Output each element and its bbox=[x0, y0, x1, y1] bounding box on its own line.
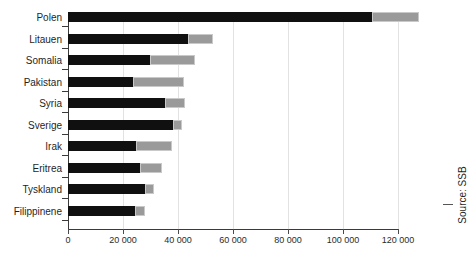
category-tick bbox=[62, 155, 68, 156]
chart-row: Polen bbox=[0, 12, 471, 33]
bar-segment-series-2-light bbox=[136, 141, 172, 151]
bar-segment-series-1-dark bbox=[68, 12, 372, 22]
category-label-irak: Irak bbox=[0, 141, 62, 153]
chart-row: Pakistan bbox=[0, 77, 471, 98]
bar-segment-series-2-light bbox=[372, 12, 419, 22]
category-tick bbox=[62, 91, 68, 92]
bar-sverige bbox=[68, 120, 182, 130]
bar-segment-series-2-light bbox=[188, 34, 213, 44]
category-tick bbox=[62, 177, 68, 178]
bar-segment-series-1-dark bbox=[68, 55, 150, 65]
chart-row: Somalia bbox=[0, 55, 471, 76]
bar-segment-series-1-dark bbox=[68, 141, 136, 151]
category-tick bbox=[62, 220, 68, 221]
chart-row: Eritrea bbox=[0, 163, 471, 184]
x-tick bbox=[343, 229, 344, 234]
bar-segment-series-1-dark bbox=[68, 184, 145, 194]
category-tick bbox=[62, 198, 68, 199]
category-label-filippinene: Filippinene bbox=[0, 206, 62, 218]
bar-segment-series-2-light bbox=[165, 98, 185, 108]
x-tick-label: 20 000 bbox=[109, 235, 137, 245]
bar-pakistan bbox=[68, 77, 184, 87]
category-tick bbox=[62, 112, 68, 113]
bar-segment-series-2-light bbox=[150, 55, 195, 65]
x-tick-label: 100 000 bbox=[327, 235, 360, 245]
x-tick bbox=[398, 229, 399, 234]
x-tick bbox=[68, 229, 69, 234]
bar-segment-series-2-light bbox=[140, 163, 162, 173]
chart-row: Irak bbox=[0, 141, 471, 162]
bar-segment-series-1-dark bbox=[68, 77, 133, 87]
bar-filippinene bbox=[68, 206, 145, 216]
bar-segment-series-2-light bbox=[133, 77, 184, 87]
x-tick bbox=[123, 229, 124, 234]
category-label-litauen: Litauen bbox=[0, 34, 62, 46]
bar-polen bbox=[68, 12, 419, 22]
bar-tyskland bbox=[68, 184, 154, 194]
category-tick bbox=[62, 26, 68, 27]
chart-row: Sverige bbox=[0, 120, 471, 141]
bar-segment-series-1-dark bbox=[68, 98, 165, 108]
x-tick-label: 120 000 bbox=[382, 235, 415, 245]
source-note: Source: SSB bbox=[455, 140, 469, 250]
x-tick-label: 40 000 bbox=[164, 235, 192, 245]
category-label-pakistan: Pakistan bbox=[0, 77, 62, 89]
category-tick bbox=[62, 69, 68, 70]
x-tick bbox=[288, 229, 289, 234]
chart-row: Tyskland bbox=[0, 184, 471, 205]
bar-somalia bbox=[68, 55, 195, 65]
x-tick-label: 60 000 bbox=[219, 235, 247, 245]
bar-segment-series-1-dark bbox=[68, 206, 135, 216]
category-label-eritrea: Eritrea bbox=[0, 163, 62, 175]
bar-syria bbox=[68, 98, 185, 108]
bar-chart: 020 00040 00060 00080 000100 000120 000 … bbox=[0, 0, 471, 258]
bar-segment-series-1-dark bbox=[68, 120, 173, 130]
bar-eritrea bbox=[68, 163, 162, 173]
category-tick bbox=[62, 48, 68, 49]
bar-litauen bbox=[68, 34, 213, 44]
chart-row: Syria bbox=[0, 98, 471, 119]
source-dash-icon bbox=[443, 204, 453, 205]
chart-row: Litauen bbox=[0, 34, 471, 55]
chart-row: Filippinene bbox=[0, 206, 471, 227]
source-label: Source: SSB bbox=[457, 166, 468, 223]
bar-segment-series-2-light bbox=[173, 120, 182, 130]
category-label-tyskland: Tyskland bbox=[0, 184, 62, 196]
category-label-sverige: Sverige bbox=[0, 120, 62, 132]
x-tick bbox=[233, 229, 234, 234]
bar-segment-series-2-light bbox=[135, 206, 145, 216]
x-tick-label: 0 bbox=[65, 235, 70, 245]
bar-segment-series-2-light bbox=[145, 184, 154, 194]
chart-title bbox=[72, 0, 372, 5]
category-label-polen: Polen bbox=[0, 12, 62, 24]
x-tick-label: 80 000 bbox=[274, 235, 302, 245]
category-tick bbox=[62, 134, 68, 135]
category-label-somalia: Somalia bbox=[0, 55, 62, 67]
bar-segment-series-1-dark bbox=[68, 34, 188, 44]
x-tick bbox=[178, 229, 179, 234]
bar-segment-series-1-dark bbox=[68, 163, 140, 173]
category-label-syria: Syria bbox=[0, 98, 62, 110]
bar-irak bbox=[68, 141, 172, 151]
